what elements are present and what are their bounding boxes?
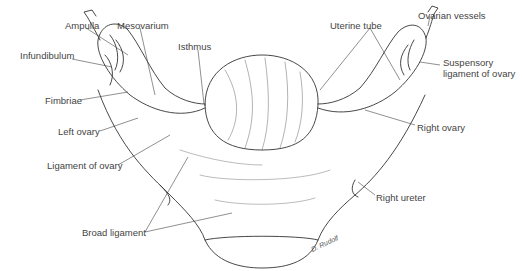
label-suspensory-2: ligament of ovary [443,68,515,79]
label-isthmus: Isthmus [178,41,211,52]
label-infundibulum: Infundibulum [20,50,74,61]
label-uterine-tube: Uterine tube [330,20,382,31]
label-left-ovary: Left ovary [58,126,100,137]
label-ligament-of-ovary: Ligament of ovary [47,160,123,171]
label-right-ovary: Right ovary [417,122,465,133]
left-tube [98,24,205,113]
right-tube [318,25,426,112]
label-mesovarium: Mesovarium [117,20,169,31]
label-ampulla: Ampulla [65,20,99,31]
broad-ligament [98,90,425,268]
uterus-body [205,55,318,150]
label-fimbriae: Fimbriae [45,95,82,106]
label-right-ureter: Right ureter [376,192,426,203]
label-suspensory-1: Suspensory [443,57,493,68]
label-broad-ligament: Broad ligament [82,227,146,238]
label-ovarian-vessels: Ovarian vessels [418,10,486,21]
